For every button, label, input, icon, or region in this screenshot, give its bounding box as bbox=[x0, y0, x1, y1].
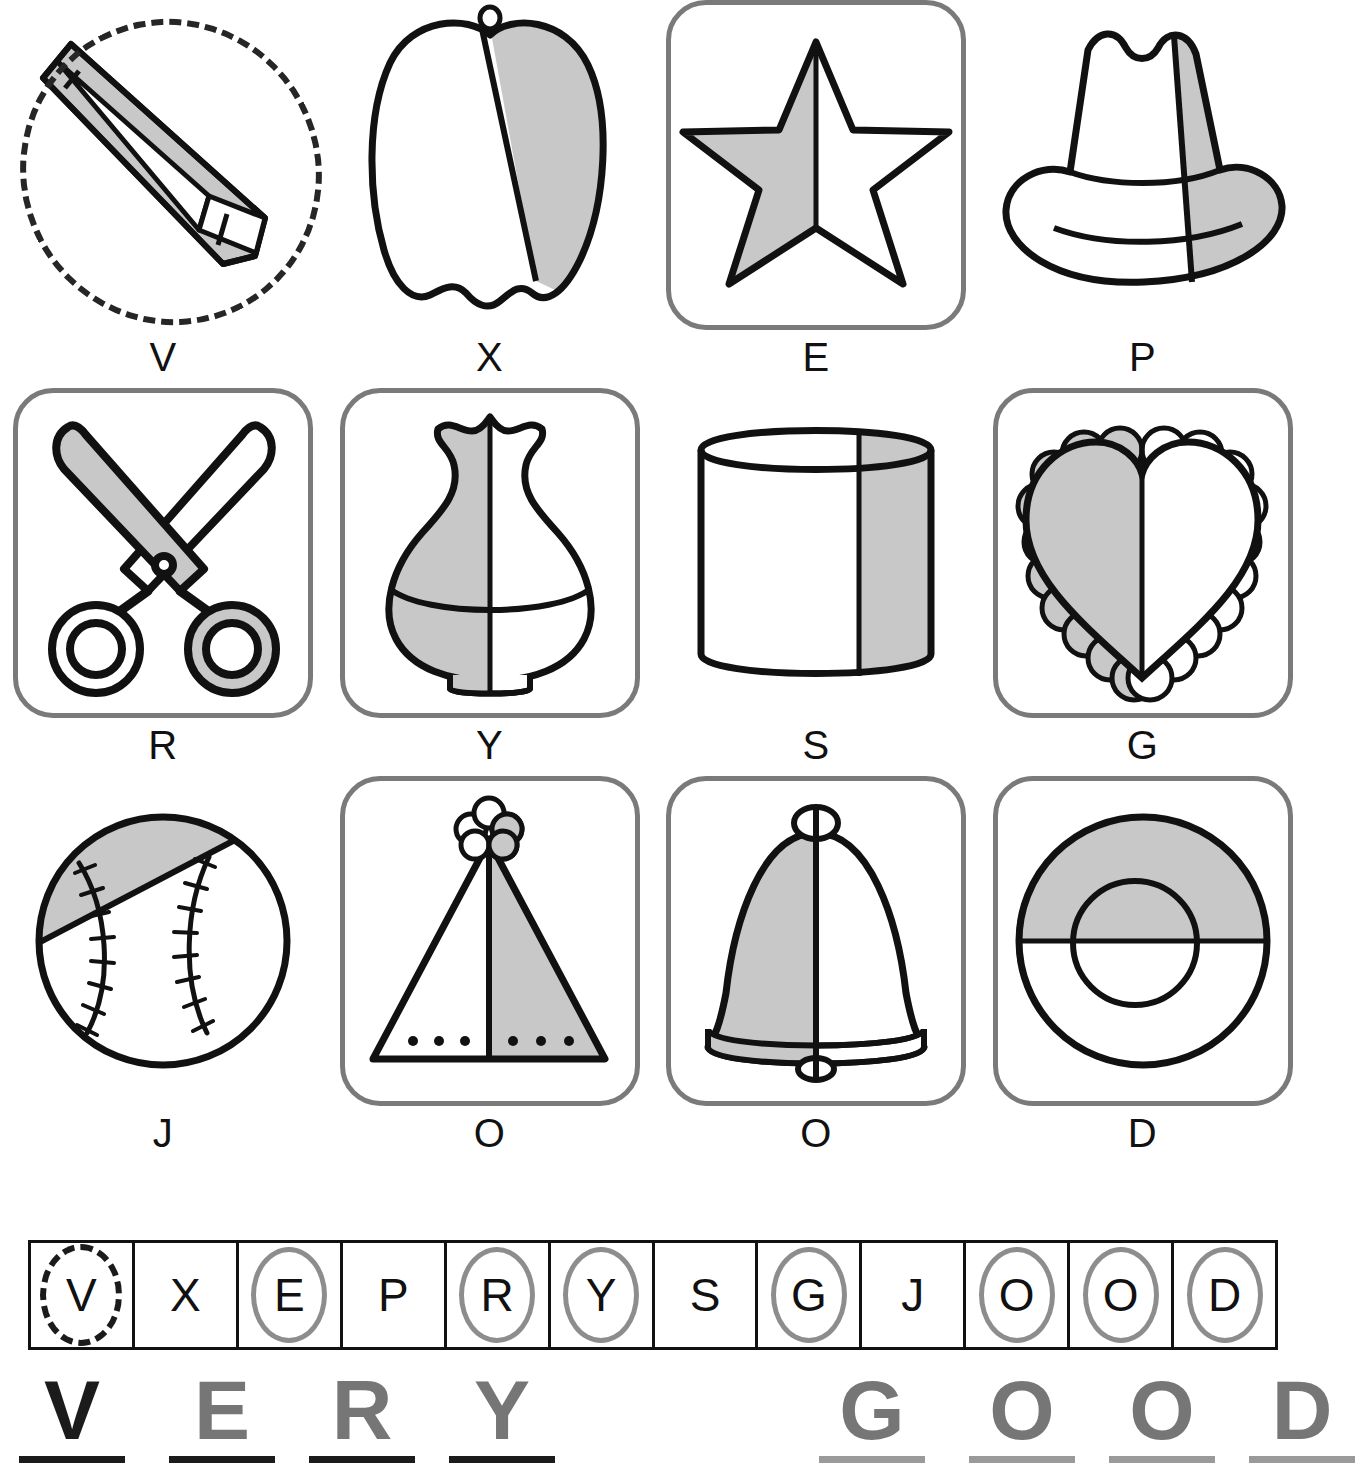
picture-cell-d[interactable]: D bbox=[980, 776, 1307, 1164]
answer-box-letter: X bbox=[170, 1272, 201, 1318]
cylinder-icon bbox=[691, 408, 941, 698]
picture-cell-y[interactable]: Y bbox=[327, 388, 654, 776]
vase-art[interactable] bbox=[340, 388, 640, 718]
message-letter-slot-3: Y bbox=[449, 1368, 555, 1463]
picture-cell-v[interactable]: V bbox=[0, 0, 327, 388]
picture-cell-o-bell[interactable]: O bbox=[653, 776, 980, 1164]
message-letter: O bbox=[969, 1368, 1075, 1452]
message-letter-underline bbox=[309, 1456, 415, 1463]
party-hat-tree-art[interactable] bbox=[340, 776, 640, 1106]
answer-box-letter: S bbox=[690, 1272, 721, 1318]
cylinder-art[interactable] bbox=[666, 388, 966, 718]
picture-label: O bbox=[474, 1112, 506, 1164]
picture-cell-g[interactable]: G bbox=[980, 388, 1307, 776]
message-letter-slot-4: G bbox=[819, 1368, 925, 1463]
message-letter: O bbox=[1109, 1368, 1215, 1452]
cowboy-hat-icon bbox=[998, 10, 1288, 320]
answer-box-x-1[interactable]: X bbox=[135, 1243, 239, 1347]
picture-cell-e[interactable]: E bbox=[653, 0, 980, 388]
answer-box-p-3[interactable]: P bbox=[343, 1243, 447, 1347]
answer-box-letter: J bbox=[901, 1272, 924, 1318]
answer-box-o-9[interactable]: O bbox=[966, 1243, 1070, 1347]
answer-box-letter: O bbox=[999, 1272, 1035, 1318]
baseball-art[interactable] bbox=[13, 776, 313, 1106]
message-letter: E bbox=[169, 1368, 275, 1452]
message-letter-slot-7: D bbox=[1249, 1368, 1355, 1463]
picture-cell-s[interactable]: S bbox=[653, 388, 980, 776]
message-letter-underline bbox=[969, 1456, 1075, 1463]
picture-label: S bbox=[802, 724, 830, 776]
picture-label: G bbox=[1127, 724, 1159, 776]
message-letter: V bbox=[19, 1368, 125, 1452]
picture-grid: V bbox=[0, 0, 1306, 1164]
answer-box-letter: V bbox=[66, 1272, 97, 1318]
answer-box-s-6[interactable]: S bbox=[655, 1243, 759, 1347]
answer-box-d-11[interactable]: D bbox=[1174, 1243, 1275, 1347]
answer-box-e-2[interactable]: E bbox=[239, 1243, 343, 1347]
message-letter-slot-1: E bbox=[169, 1368, 275, 1463]
picture-cell-x[interactable]: X bbox=[327, 0, 654, 388]
answer-box-r-4[interactable]: R bbox=[447, 1243, 551, 1347]
picture-label: V bbox=[149, 336, 177, 388]
answer-box-letter: G bbox=[791, 1272, 827, 1318]
answer-box-letter: O bbox=[1103, 1272, 1139, 1318]
picture-cell-o-tree[interactable]: O bbox=[327, 776, 654, 1164]
answer-box-j-8[interactable]: J bbox=[862, 1243, 966, 1347]
donut-ring-art[interactable] bbox=[993, 776, 1293, 1106]
baseball-icon bbox=[33, 811, 293, 1071]
crayon-art[interactable] bbox=[13, 0, 313, 330]
bell-pepper-art[interactable] bbox=[340, 0, 640, 330]
picture-label: P bbox=[1129, 336, 1157, 388]
picture-label: E bbox=[802, 336, 830, 388]
scissors-art[interactable] bbox=[13, 388, 313, 718]
bell-pepper-icon bbox=[350, 5, 630, 325]
party-hat-tree-icon bbox=[357, 801, 622, 1081]
picture-label: D bbox=[1128, 1112, 1158, 1164]
message-letter-slot-6: O bbox=[1109, 1368, 1215, 1463]
bell-icon bbox=[684, 801, 949, 1081]
picture-label: R bbox=[148, 724, 178, 776]
picture-label: O bbox=[800, 1112, 832, 1164]
donut-ring-icon bbox=[1013, 811, 1273, 1071]
answer-box-letter: P bbox=[378, 1272, 409, 1318]
star-icon bbox=[681, 30, 951, 300]
message-letter-underline bbox=[1109, 1456, 1215, 1463]
scissors-icon bbox=[28, 413, 298, 693]
answer-box-letter: R bbox=[481, 1272, 514, 1318]
answer-box-v-0[interactable]: V bbox=[31, 1243, 135, 1347]
message-letter-underline bbox=[1249, 1456, 1355, 1463]
answer-box-letter: D bbox=[1208, 1272, 1241, 1318]
message-letter: R bbox=[309, 1368, 415, 1452]
picture-label: X bbox=[476, 336, 504, 388]
picture-label: Y bbox=[476, 724, 504, 776]
picture-row: R bbox=[0, 388, 1306, 776]
lace-heart-art[interactable] bbox=[993, 388, 1293, 718]
message-letter-underline bbox=[449, 1456, 555, 1463]
answer-box-o-10[interactable]: O bbox=[1070, 1243, 1174, 1347]
cowboy-hat-art[interactable] bbox=[993, 0, 1293, 330]
answer-box-letter: Y bbox=[586, 1272, 617, 1318]
picture-row: J bbox=[0, 776, 1306, 1164]
star-art[interactable] bbox=[666, 0, 966, 330]
picture-cell-j[interactable]: J bbox=[0, 776, 327, 1164]
picture-row: V bbox=[0, 0, 1306, 388]
message-letter-underline bbox=[19, 1456, 125, 1463]
answer-letter-strip[interactable]: VXEPRYSGJOOD bbox=[28, 1240, 1278, 1350]
vase-icon bbox=[360, 413, 620, 693]
picture-cell-r[interactable]: R bbox=[0, 388, 327, 776]
answer-box-y-5[interactable]: Y bbox=[551, 1243, 655, 1347]
message-letter-underline bbox=[819, 1456, 925, 1463]
message-letter-underline bbox=[169, 1456, 275, 1463]
bell-art[interactable] bbox=[666, 776, 966, 1106]
message-letter: G bbox=[819, 1368, 925, 1452]
picture-label: J bbox=[153, 1112, 174, 1164]
answer-box-g-7[interactable]: G bbox=[758, 1243, 862, 1347]
message-letter-slot-0: V bbox=[19, 1368, 125, 1463]
message-letter-slot-5: O bbox=[969, 1368, 1075, 1463]
message-letter: Y bbox=[449, 1368, 555, 1452]
picture-cell-p[interactable]: P bbox=[980, 0, 1307, 388]
message-letter-slot-2: R bbox=[309, 1368, 415, 1463]
very-good-message: VERYGOOD bbox=[0, 1368, 1306, 1468]
lace-heart-icon bbox=[1010, 416, 1275, 691]
